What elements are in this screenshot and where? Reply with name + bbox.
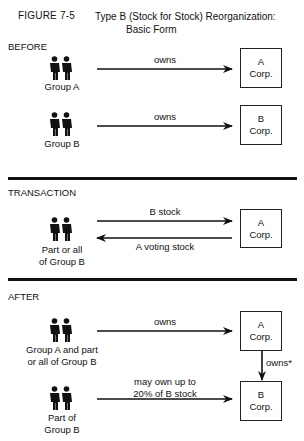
label-line1: Part or all xyxy=(25,244,99,256)
part-of-group-b-label: Part of Group B xyxy=(30,412,94,436)
part-or-all-group-b-label: Part or all of Group B xyxy=(25,244,99,268)
box-line1: A xyxy=(241,319,281,331)
label-line2: 20% of B stock xyxy=(110,388,220,400)
box-line1: A xyxy=(241,56,281,68)
group-b-label: Group B xyxy=(30,138,94,150)
box-line1: B xyxy=(241,389,281,401)
group-a-and-part-of-b-label: Group A and part or all of Group B xyxy=(14,344,110,368)
section-heading-after: AFTER xyxy=(8,291,39,302)
label-line2: Group B xyxy=(30,424,94,436)
b-stock-label: B stock xyxy=(120,206,210,218)
box-line2: Corp. xyxy=(241,331,281,343)
owns-label-b: owns xyxy=(120,111,210,123)
label-line2: of Group B xyxy=(25,256,99,268)
b-corp-box: B Corp. xyxy=(240,105,282,145)
group-a-label: Group A xyxy=(30,81,94,93)
two-people-icon xyxy=(48,318,74,342)
section-heading-before: BEFORE xyxy=(8,41,47,52)
box-line1: A xyxy=(241,217,281,229)
box-line1: B xyxy=(241,113,281,125)
a-corp-box: A Corp. xyxy=(240,48,282,88)
may-own-20-percent-label: may own up to 20% of B stock xyxy=(110,376,220,400)
owns-asterisk-label: owns* xyxy=(266,357,292,369)
two-people-icon xyxy=(48,56,74,80)
a-corp-box: A Corp. xyxy=(240,209,282,248)
label-line1: Part of xyxy=(30,412,94,424)
box-line2: Corp. xyxy=(241,229,281,241)
b-corp-box: B Corp. xyxy=(240,381,282,421)
section-divider xyxy=(8,278,297,281)
a-voting-stock-label: A voting stock xyxy=(115,241,215,253)
label-line2: or all of Group B xyxy=(14,356,110,368)
a-corp-box: A Corp. xyxy=(240,311,282,351)
box-line2: Corp. xyxy=(241,68,281,80)
section-heading-transaction: TRANSACTION xyxy=(8,187,76,198)
two-people-icon xyxy=(48,386,74,410)
owns-label-a: owns xyxy=(120,54,210,66)
section-divider xyxy=(8,177,297,180)
label-line1: Group A and part xyxy=(14,344,110,356)
box-line2: Corp. xyxy=(241,401,281,413)
label-line1: may own up to xyxy=(110,376,220,388)
two-people-icon xyxy=(48,112,74,136)
owns-label-after: owns xyxy=(120,316,210,328)
two-people-icon xyxy=(48,217,74,241)
box-line2: Corp. xyxy=(241,125,281,137)
